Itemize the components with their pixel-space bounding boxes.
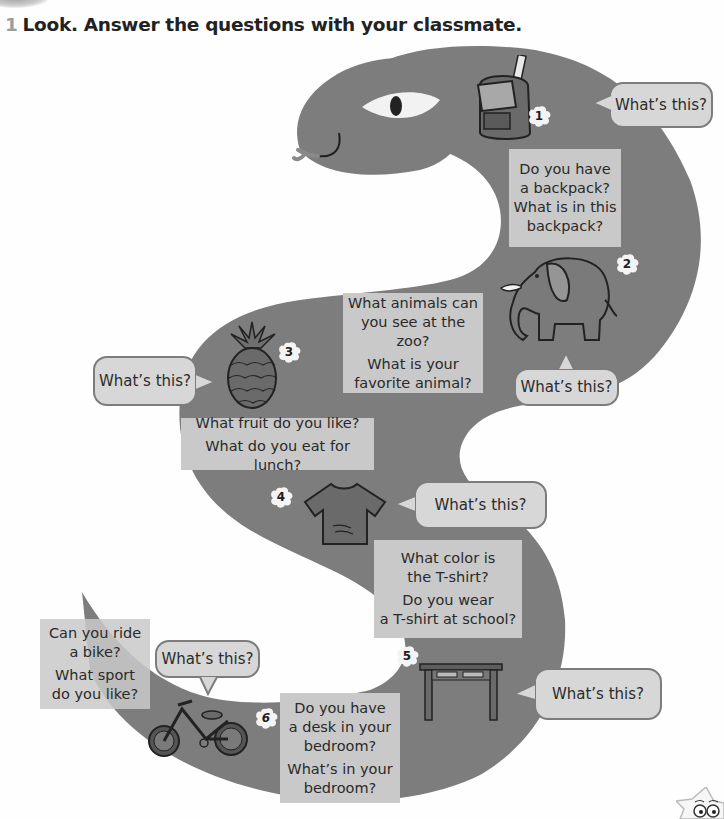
bubble-tail: [195, 372, 217, 392]
bubble-tail: [513, 682, 536, 702]
question-box-6: Can you ridea bike? What sportdo you lik…: [40, 619, 150, 709]
station-badge-3: 3: [276, 341, 302, 363]
whats-this-bubble-4: What’s this?: [414, 481, 547, 529]
question-box-4: What color isthe T-shirt? Do you weara T…: [374, 540, 522, 638]
whats-this-bubble-3: What’s this?: [93, 356, 197, 406]
t-shirt-icon: [303, 482, 387, 546]
bike-icon: [148, 697, 250, 759]
question-box-2: What animals canyou see at the zoo? What…: [343, 293, 483, 393]
star-mascot-icon: [676, 787, 724, 819]
bubble-tail: [394, 494, 416, 514]
snake-eye-pupil: [390, 96, 402, 116]
question-box-5: Do you havea desk in yourbedroom? What’s…: [280, 693, 400, 803]
desk-icon: [419, 663, 503, 721]
whats-this-bubble-5: What’s this?: [534, 668, 662, 720]
pineapple-icon: [225, 320, 280, 410]
station-badge-1: 1: [526, 105, 552, 127]
question-box-1: Do you havea backpack?What is in thisbac…: [509, 149, 621, 247]
question-box-3: What fruit do you like? What do you eat …: [181, 418, 374, 470]
whats-this-bubble-6: What’s this?: [155, 640, 260, 678]
station-badge-6: 6: [253, 707, 279, 729]
station-badge-4: 4: [268, 486, 294, 508]
station-badge-5: 5: [394, 645, 420, 667]
bubble-tail: [199, 676, 219, 696]
bubble-tail: [592, 93, 612, 113]
station-badge-2: 2: [614, 253, 640, 275]
backpack-icon: [470, 55, 540, 145]
elephant-icon: [495, 252, 620, 344]
whats-this-bubble-1: What’s this?: [609, 82, 713, 128]
bubble-tail: [556, 352, 576, 370]
whats-this-bubble-2: What’s this?: [514, 368, 619, 406]
